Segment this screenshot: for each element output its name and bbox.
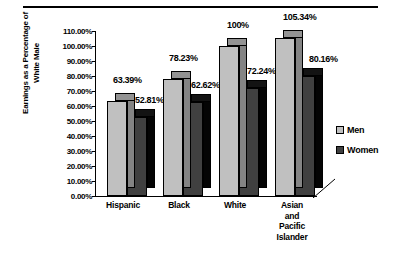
data-label-men-black: 78.23% [169, 53, 198, 63]
y-axis-tick-label: 0.00% [44, 192, 92, 201]
y-axis-tick-labels: 110.00%100.00%90.00%80.00%70.00%60.00%50… [44, 0, 92, 262]
bar-top-face [171, 71, 191, 79]
y-axis-tick-label: 40.00% [44, 132, 92, 141]
category-label-line: and [258, 211, 326, 222]
bar-side-face [239, 38, 247, 188]
bar-side-face [147, 109, 155, 188]
bar-side-face [203, 94, 211, 188]
bar-chart: Earnings as a Percentage of White Male 1… [0, 0, 397, 262]
y-axis-tick-label: 80.00% [44, 72, 92, 81]
bar-top-face [303, 68, 323, 76]
legend-swatch-icon [336, 146, 344, 154]
legend-label: Men [347, 125, 364, 135]
bar-top-face [135, 109, 155, 117]
bar-top-face [247, 80, 267, 88]
bar-top-face [227, 38, 247, 46]
y-axis-tick-label: 90.00% [44, 57, 92, 66]
y-axis-tick-label: 50.00% [44, 117, 92, 126]
bar-side-face [127, 93, 135, 188]
data-label-women-hispanic: 52.81% [135, 95, 164, 105]
bar-top-face [191, 94, 211, 102]
data-label-women-asian: 80.16% [309, 54, 338, 64]
category-label-line: Asian [258, 200, 326, 211]
bar-group [107, 31, 161, 196]
legend-swatch-icon [336, 126, 344, 134]
data-label-men-white: 100% [227, 20, 249, 30]
bar-side-face [183, 71, 191, 188]
y-axis-title-line-1: Earnings as a Percentage of [20, 0, 31, 143]
legend-label: Women [347, 145, 378, 155]
y-axis-tick-label: 70.00% [44, 87, 92, 96]
bar-front-face [163, 79, 183, 196]
bar-side-face [295, 30, 303, 188]
bar-front-face [275, 38, 295, 196]
legend: MenWomen [336, 122, 378, 162]
data-label-men-asian: 105.34% [283, 12, 316, 22]
data-label-men-hispanic: 63.39% [113, 75, 142, 85]
bar-front-face [219, 46, 239, 196]
category-label-line: Islander [258, 232, 326, 243]
bar-side-face [315, 68, 323, 188]
plot-area [95, 31, 317, 196]
y-axis-tick-label: 10.00% [44, 177, 92, 186]
legend-item-women[interactable]: Women [336, 142, 378, 157]
bar-group [219, 31, 273, 196]
y-axis-tick-label: 100.00% [44, 42, 92, 51]
y-axis-tick-label: 110.00% [44, 27, 92, 36]
y-axis-tick-label: 20.00% [44, 162, 92, 171]
y-axis-tick-label: 60.00% [44, 102, 92, 111]
bar-top-face [283, 30, 303, 38]
category-label-line: Pacific [258, 221, 326, 232]
bar-side-face [259, 80, 267, 188]
y-axis-title-line-2: White Male [31, 0, 42, 143]
data-label-women-white: 72.24% [247, 66, 276, 76]
bar-front-face [107, 101, 127, 196]
data-label-women-black: 62.62% [191, 80, 220, 90]
bar-top-face [115, 93, 135, 101]
x-axis-line [95, 196, 317, 197]
y-axis-tick-label: 30.00% [44, 147, 92, 156]
legend-item-men[interactable]: Men [336, 122, 378, 137]
category-label: AsianandPacificIslander [258, 200, 326, 242]
